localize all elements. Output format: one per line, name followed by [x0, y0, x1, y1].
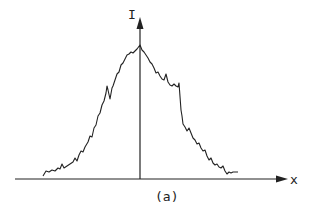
y-axis-label: I: [128, 7, 136, 22]
intensity-profile-diagram: I x (a): [0, 0, 314, 221]
x-axis-label: x: [290, 172, 298, 187]
figure-caption: (a): [155, 189, 178, 204]
x-axis-arrowhead: [276, 176, 288, 183]
y-axis-arrowhead: [137, 17, 144, 29]
